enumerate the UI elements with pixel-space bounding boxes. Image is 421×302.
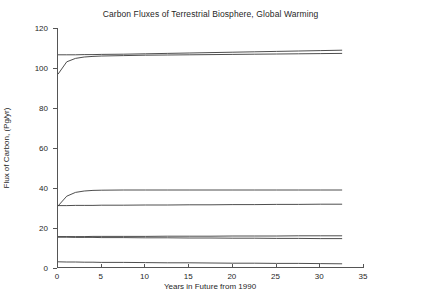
plot-area	[57, 28, 363, 268]
x-tick-label: 25	[261, 272, 291, 281]
x-tick-label: 35	[348, 272, 378, 281]
x-tick-label: 10	[129, 272, 159, 281]
x-tick-label: 30	[304, 272, 334, 281]
data-lines	[58, 28, 364, 268]
data-line	[58, 190, 342, 206]
x-tick-label: 15	[173, 272, 203, 281]
data-line	[58, 204, 342, 205]
data-line	[58, 53, 342, 74]
data-line	[58, 237, 342, 238]
data-line	[58, 262, 342, 264]
chart-figure: Carbon Fluxes of Terrestrial Biosphere, …	[0, 0, 421, 302]
data-line	[58, 236, 342, 237]
x-tick-label: 20	[217, 272, 247, 281]
x-tick-label: 0	[42, 272, 72, 281]
x-tick-label: 5	[86, 272, 116, 281]
